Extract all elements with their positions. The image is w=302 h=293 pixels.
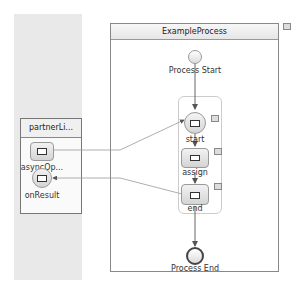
documentation-icon[interactable] [211, 115, 219, 122]
process-end-event[interactable] [186, 247, 204, 265]
process-start-event[interactable] [188, 50, 202, 64]
start-receive-node[interactable] [184, 112, 206, 134]
process-start-label: Process Start [165, 66, 225, 75]
envelope-icon [190, 120, 200, 127]
end-label: end [175, 204, 215, 213]
end-reply-node[interactable] [181, 184, 209, 205]
process-end-label: Process End [165, 264, 225, 273]
connectors [0, 0, 302, 293]
assign-icon [190, 155, 200, 161]
envelope-icon [190, 192, 200, 199]
assign-node[interactable] [181, 148, 209, 168]
start-label: start [175, 135, 215, 144]
assign-label: assign [175, 168, 215, 177]
documentation-icon[interactable] [214, 148, 222, 155]
documentation-icon[interactable] [214, 183, 222, 190]
